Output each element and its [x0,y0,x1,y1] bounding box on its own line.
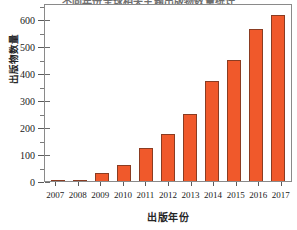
y-tick-inner-500 [45,47,50,48]
x-tick-2008 [78,182,79,186]
bar-2015[interactable] [227,60,242,181]
bar-slot [69,5,91,181]
y-tick-300 [38,101,44,102]
y-minor-tick-50 [40,169,44,170]
x-tick-2010 [123,182,124,186]
y-tick-label-400: 400 [0,69,35,80]
y-tick-200 [38,128,44,129]
y-tick-500 [38,47,44,48]
bar-2013[interactable] [183,114,198,181]
y-tick-0 [38,182,44,183]
y-tick-100 [38,155,44,156]
x-tick-2015 [236,182,237,186]
y-tick-inner-300 [45,101,50,102]
y-minor-tick-350 [40,88,44,89]
bar-2016[interactable] [249,29,264,181]
y-minor-tick-450 [40,61,44,62]
y-minor-tick-650 [40,7,44,8]
plot-area [44,4,292,182]
y-tick-label-500: 500 [0,42,35,53]
y-tick-inner-100 [45,155,50,156]
y-tick-label-300: 300 [0,96,35,107]
bar-2017[interactable] [271,15,286,181]
bar-slot [91,5,113,181]
x-tick-label-2017: 2017 [266,190,296,200]
bar-2011[interactable] [139,148,154,181]
x-tick-2016 [258,182,259,186]
x-axis-title: 出版年份 [44,209,292,224]
bar-2012[interactable] [161,134,176,181]
bar-2010[interactable] [117,165,132,181]
bar-chart-figure: 不同年份全球相关主题出版物数量统计 出版物数量 出版年份 01002003004… [0,0,297,230]
bar-slot [201,5,223,181]
y-minor-tick-250 [40,115,44,116]
y-minor-tick-150 [40,142,44,143]
y-minor-tick-550 [40,34,44,35]
bar-slot [223,5,245,181]
bar-slot [157,5,179,181]
y-tick-400 [38,74,44,75]
y-tick-label-0: 0 [0,177,35,188]
y-tick-inner-400 [45,74,50,75]
bar-slot [245,5,267,181]
bar-series [45,5,291,181]
bar-slot [113,5,135,181]
y-tick-inner-0 [45,182,50,183]
bar-slot [267,5,289,181]
bar-2008[interactable] [73,180,88,181]
x-tick-2011 [145,182,146,186]
y-tick-label-200: 200 [0,123,35,134]
x-tick-2012 [168,182,169,186]
y-tick-label-600: 600 [0,15,35,26]
y-tick-600 [38,20,44,21]
x-tick-2017 [281,182,282,186]
bar-2009[interactable] [95,173,110,181]
y-tick-inner-200 [45,128,50,129]
x-tick-2013 [191,182,192,186]
y-tick-inner-600 [45,20,50,21]
x-tick-2014 [213,182,214,186]
bar-slot [179,5,201,181]
x-tick-2007 [55,182,56,186]
bar-2007[interactable] [51,180,66,181]
y-tick-label-100: 100 [0,150,35,161]
bar-slot [47,5,69,181]
x-tick-2009 [100,182,101,186]
bar-slot [135,5,157,181]
bar-2014[interactable] [205,81,220,181]
